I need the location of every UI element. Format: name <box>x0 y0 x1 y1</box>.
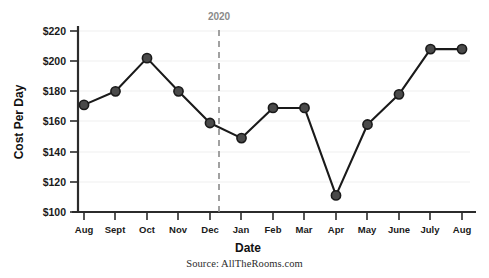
x-tick-label: July <box>420 224 440 235</box>
data-point <box>300 103 309 112</box>
y-tick-label: $120 <box>43 176 67 188</box>
data-series-line <box>84 49 462 195</box>
data-point <box>205 118 214 127</box>
data-point <box>79 100 88 109</box>
y-tick-label: $140 <box>43 146 67 158</box>
x-tick-label: Aug <box>453 224 472 235</box>
data-point <box>363 120 372 129</box>
x-tick-label: Aug <box>75 224 94 235</box>
data-point <box>111 87 120 96</box>
data-point <box>237 133 246 142</box>
x-tick-label: Feb <box>265 224 282 235</box>
x-tick-label: Nov <box>169 224 188 235</box>
data-point <box>268 103 277 112</box>
x-tick-label: Sept <box>105 224 126 235</box>
y-tick-label: $220 <box>43 25 67 37</box>
x-tick-label: Mar <box>296 224 313 235</box>
annotation-label: 2020 <box>208 11 231 22</box>
y-axis-title: Cost Per Day <box>12 84 26 159</box>
x-tick-label: May <box>358 224 377 235</box>
y-tick-label: $100 <box>43 206 67 218</box>
y-axis-ticks <box>70 31 78 212</box>
y-tick-label: $200 <box>43 55 67 67</box>
data-point <box>331 191 340 200</box>
line-chart: $220 $200 $180 $160 $140 $120 $100 <box>0 0 489 278</box>
x-tick-label: Oct <box>139 224 156 235</box>
data-point <box>394 90 403 99</box>
x-tick-label: Apr <box>328 224 345 235</box>
y-tick-label: $180 <box>43 85 67 97</box>
data-point <box>457 45 466 54</box>
x-axis-title: Date <box>235 241 261 255</box>
y-axis-tick-labels: $220 $200 $180 $160 $140 $120 $100 <box>43 25 67 218</box>
x-axis-ticks <box>84 212 462 220</box>
x-tick-label: June <box>388 224 410 235</box>
source-note: Source: AllTheRooms.com <box>0 258 489 269</box>
y-tick-label: $160 <box>43 115 67 127</box>
x-axis-tick-labels: Aug Sept Oct Nov Dec Jan Feb Mar Apr May… <box>75 224 472 235</box>
data-point <box>174 87 183 96</box>
x-tick-label: Dec <box>201 224 218 235</box>
data-point <box>426 45 435 54</box>
x-tick-label: Jan <box>233 224 250 235</box>
data-point <box>142 54 151 63</box>
chart-figure: $220 $200 $180 $160 $140 $120 $100 <box>0 0 489 278</box>
